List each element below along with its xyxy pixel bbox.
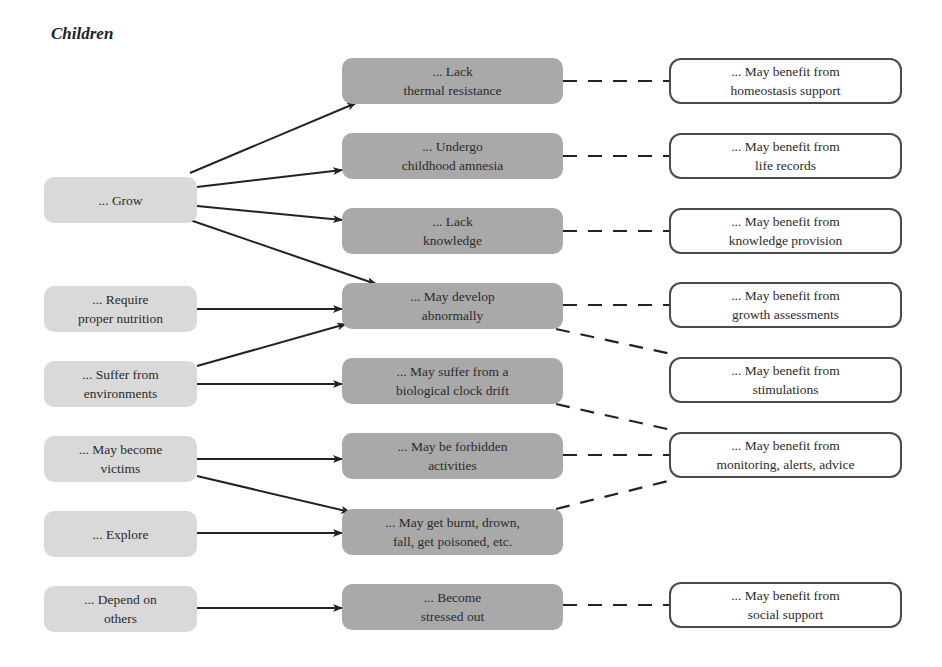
cause-require-nutrition: ... Require proper nutrition bbox=[44, 286, 197, 332]
arrow-grow-knowledge bbox=[197, 206, 342, 220]
benefit-knowledge-provision: ... May benefit from knowledge provision bbox=[669, 208, 902, 254]
benefit-stimulations: ... May benefit from stimulations bbox=[669, 357, 902, 403]
benefit-monitoring-alerts-advice: ... May benefit from monitoring, alerts,… bbox=[669, 432, 902, 478]
arrow-grow-thermal bbox=[190, 103, 356, 173]
arrow-victims-burnt bbox=[197, 476, 350, 512]
cause-explore: ... Explore bbox=[44, 511, 197, 557]
arrow-environments-abnormal bbox=[197, 324, 346, 366]
effect-stressed-out: ... Become stressed out bbox=[342, 584, 563, 630]
effect-develop-abnormally: ... May develop abnormally bbox=[342, 283, 563, 329]
arrow-grow-amnesia bbox=[197, 170, 342, 187]
effect-lack-thermal-resistance: ... Lack thermal resistance bbox=[342, 58, 563, 104]
benefit-life-records: ... May benefit from life records bbox=[669, 133, 902, 179]
cause-suffer-environments: ... Suffer from environments bbox=[44, 361, 197, 407]
effect-lack-knowledge: ... Lack knowledge bbox=[342, 208, 563, 254]
dash-abnormal-stimulations bbox=[556, 329, 676, 355]
effect-burnt-drown-fall: ... May get burnt, drown, fall, get pois… bbox=[342, 509, 563, 555]
benefit-homeostasis-support: ... May benefit from homeostasis support bbox=[669, 58, 902, 104]
effect-forbidden-activities: ... May be forbidden activities bbox=[342, 433, 563, 479]
dash-burnt-monitoring bbox=[556, 479, 676, 509]
cause-depend-on-others: ... Depend on others bbox=[44, 586, 197, 632]
effect-childhood-amnesia: ... Undergo childhood amnesia bbox=[342, 133, 563, 179]
cause-become-victims: ... May become victims bbox=[44, 436, 197, 482]
cause-grow: ... Grow bbox=[44, 177, 197, 223]
effect-biological-clock-drift: ... May suffer from a biological clock d… bbox=[342, 358, 563, 404]
benefit-social-support: ... May benefit from social support bbox=[669, 582, 902, 628]
dashed-links bbox=[556, 81, 676, 605]
benefit-growth-assessments: ... May benefit from growth assessments bbox=[669, 282, 902, 328]
dash-clock-monitoring bbox=[556, 404, 676, 431]
